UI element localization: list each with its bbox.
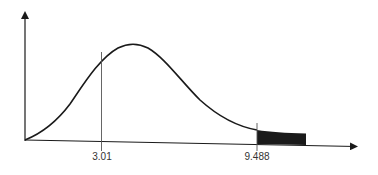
- chi-square-chart: 3.01 9.488: [0, 0, 378, 175]
- x-axis: [25, 140, 356, 147]
- label-test-statistic: 3.01: [92, 151, 112, 162]
- density-curve: [25, 44, 257, 140]
- rejection-region-shade: [257, 130, 306, 145]
- label-critical-value: 9.488: [244, 151, 269, 162]
